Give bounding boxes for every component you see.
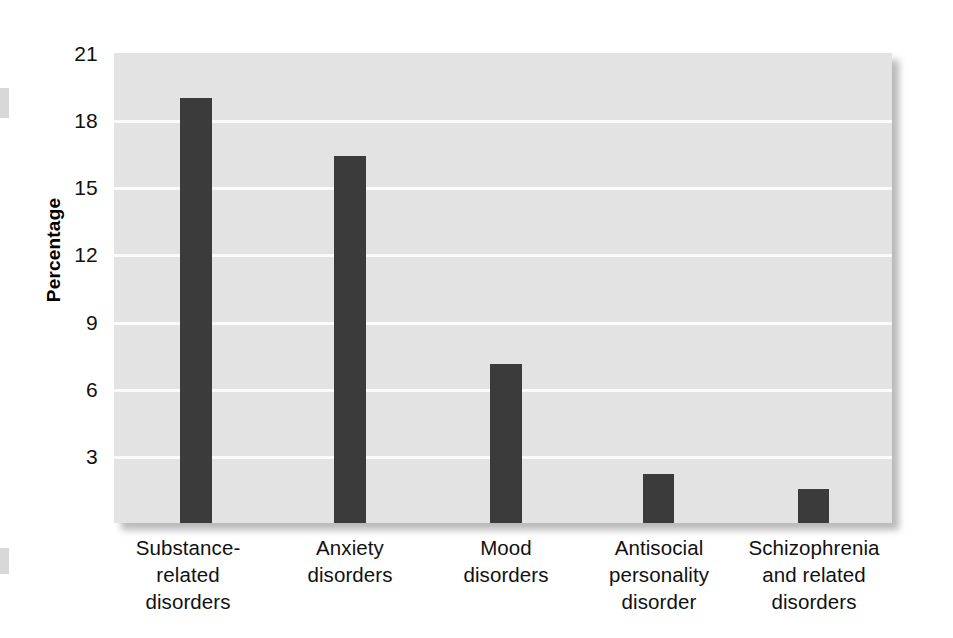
x-label-line: disorder <box>576 588 742 615</box>
y-tick-label: 9 <box>58 311 98 332</box>
x-label-line: Schizophrenia <box>727 534 901 561</box>
x-label-line: Mood <box>424 534 588 561</box>
x-label-line: Anxiety <box>268 534 432 561</box>
x-label-line: personality <box>576 561 742 588</box>
y-tick-label: 12 <box>58 244 98 265</box>
x-label-substance-related-disorders: Substance- related disorders <box>106 534 270 615</box>
x-label-line: disorders <box>106 588 270 615</box>
x-label-line: disorders <box>727 588 901 615</box>
y-tick-label: 3 <box>58 445 98 466</box>
bar-chart-figure: Percentage 21 18 15 12 9 6 3 Substance- … <box>0 0 953 638</box>
x-label-line: Substance- <box>106 534 270 561</box>
x-label-line: related <box>106 561 270 588</box>
x-label-schizophrenia-and-related-disorders: Schizophrenia and related disorders <box>727 534 901 615</box>
plot-area <box>114 53 892 523</box>
x-label-line: and related <box>727 561 901 588</box>
x-label-line: disorders <box>424 561 588 588</box>
bar-anxiety-disorders[interactable] <box>334 156 366 523</box>
y-tick-label: 15 <box>58 177 98 198</box>
x-axis-category-labels: Substance- related disorders Anxiety dis… <box>114 534 892 634</box>
x-label-line: disorders <box>268 561 432 588</box>
y-tick-label: 18 <box>58 110 98 131</box>
bar-antisocial-personality-disorder[interactable] <box>643 474 674 523</box>
bar-schizophrenia-and-related-disorders[interactable] <box>798 489 829 523</box>
x-label-mood-disorders: Mood disorders <box>424 534 588 588</box>
bar-mood-disorders[interactable] <box>490 364 522 523</box>
y-axis-tick-labels: 21 18 15 12 9 6 3 <box>0 53 104 523</box>
x-label-line: Antisocial <box>576 534 742 561</box>
y-tick-label: 21 <box>58 43 98 64</box>
bars-layer <box>114 53 892 523</box>
x-label-antisocial-personality-disorder: Antisocial personality disorder <box>576 534 742 615</box>
page-edge-mark-bottom <box>0 548 9 574</box>
bar-substance-related-disorders[interactable] <box>180 98 212 523</box>
x-label-anxiety-disorders: Anxiety disorders <box>268 534 432 588</box>
y-tick-label: 6 <box>58 378 98 399</box>
